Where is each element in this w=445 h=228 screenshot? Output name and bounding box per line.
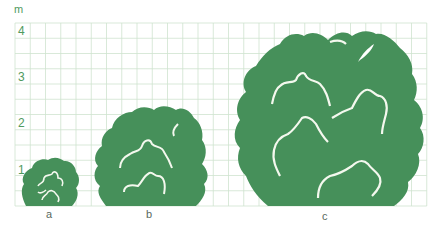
y-tick-1: 1 [18,163,25,177]
shrub-size-diagram: m 1 2 3 4 a b c [0,0,445,228]
y-tick-2: 2 [18,116,25,130]
shrub-b [95,106,208,206]
shrub-c-label: c [322,210,328,222]
shrub-b-label: b [146,208,152,220]
grid-and-shrubs [0,0,445,228]
shrub-c [235,31,424,206]
shrub-a-label: a [46,208,52,220]
y-tick-3: 3 [18,70,25,84]
unit-label: m [14,3,23,15]
y-tick-4: 4 [18,24,25,38]
